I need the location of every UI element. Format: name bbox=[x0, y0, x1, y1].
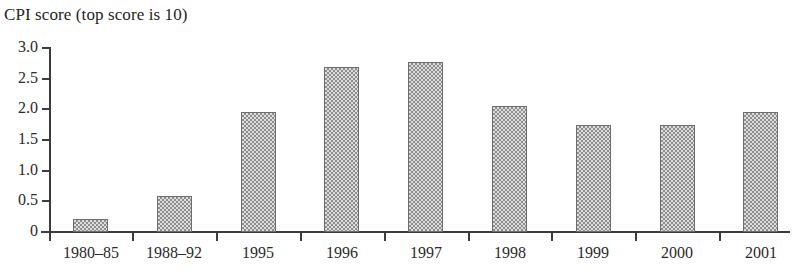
y-axis-tick bbox=[42, 139, 50, 141]
bar bbox=[408, 62, 443, 232]
x-axis-tick bbox=[216, 233, 218, 241]
y-axis-tick-label-text: 0.5 bbox=[2, 192, 38, 208]
bar bbox=[241, 112, 276, 232]
y-axis-tick-label: 0.5 bbox=[0, 192, 38, 208]
bar bbox=[743, 112, 778, 232]
y-axis-tick-label: 2.5 bbox=[0, 70, 38, 86]
y-axis-tick bbox=[42, 170, 50, 172]
y-axis-tick-label: 1.5 bbox=[0, 131, 38, 147]
plot-area: 00.51.01.52.02.53.0 1980–851988–92199519… bbox=[0, 0, 799, 271]
bar bbox=[660, 125, 695, 232]
bar bbox=[492, 106, 527, 232]
x-axis-tick bbox=[551, 233, 553, 241]
cpi-score-bar-chart: CPI score (top score is 10) 00.51.01.52.… bbox=[0, 0, 799, 271]
bar bbox=[157, 196, 192, 232]
y-axis-tick bbox=[42, 200, 50, 202]
bar bbox=[576, 125, 611, 232]
x-axis-tick bbox=[635, 233, 637, 241]
bar bbox=[324, 67, 359, 232]
y-axis-tick bbox=[42, 108, 50, 110]
y-axis-tick-label-text: 3.0 bbox=[2, 39, 38, 55]
x-axis-tick bbox=[468, 233, 470, 241]
x-axis-tick bbox=[300, 233, 302, 241]
x-axis-tick bbox=[132, 233, 134, 241]
y-axis-tick-label-text: 2.0 bbox=[2, 100, 38, 116]
x-axis-tick-label: 2001 bbox=[706, 243, 799, 263]
bar bbox=[73, 219, 108, 232]
y-axis-tick-label: 0 bbox=[0, 223, 38, 239]
y-axis-tick-label-text: 0 bbox=[2, 223, 38, 239]
y-axis-tick-label-text: 1.0 bbox=[2, 162, 38, 178]
y-axis-tick bbox=[42, 47, 50, 49]
x-axis-tick bbox=[384, 233, 386, 241]
y-axis-tick-label: 3.0 bbox=[0, 39, 38, 55]
y-axis-tick-label: 2.0 bbox=[0, 100, 38, 116]
y-axis-tick-label-text: 2.5 bbox=[2, 70, 38, 86]
x-axis-tick bbox=[719, 233, 721, 241]
y-axis-tick-label: 1.0 bbox=[0, 162, 38, 178]
y-axis-tick-label-text: 1.5 bbox=[2, 131, 38, 147]
x-axis-tick bbox=[49, 233, 51, 241]
y-axis-tick bbox=[42, 78, 50, 80]
